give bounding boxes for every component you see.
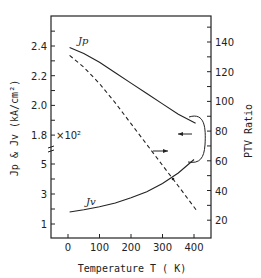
x-tick-label: 300 bbox=[153, 242, 172, 253]
jp-curve-label: Jp bbox=[76, 35, 89, 46]
right-tick-label: 140 bbox=[215, 37, 234, 48]
right-tick-label: 60 bbox=[215, 156, 228, 167]
x-tick-label: 200 bbox=[121, 242, 140, 253]
right-tick-label: 100 bbox=[215, 96, 234, 107]
x-tick-label: 0 bbox=[65, 242, 71, 253]
x-tick-label: 400 bbox=[184, 242, 203, 253]
left-axis-label: Jp & Jv (kA/cm²) bbox=[9, 80, 20, 176]
right-arrow-head bbox=[163, 149, 168, 153]
x-axis-ticks: 0100200300400 bbox=[65, 234, 204, 253]
right-tick-label: 20 bbox=[215, 215, 228, 226]
plot-frame bbox=[48, 16, 211, 238]
chart-figure: 0100200300400 2.42.22.01.8531 1401201008… bbox=[0, 0, 261, 278]
intersection-dot bbox=[172, 178, 175, 181]
left-arrow-head bbox=[178, 132, 183, 136]
left-tick-label: 2.2 bbox=[31, 71, 47, 82]
left-tick-label: 1 bbox=[41, 219, 47, 230]
x-tick-label: 100 bbox=[90, 242, 109, 253]
jp-curve bbox=[70, 48, 196, 124]
right-tick-label: 80 bbox=[215, 126, 228, 137]
left-tick-label: 2.0 bbox=[31, 100, 47, 111]
left-tick-label: 1.8 bbox=[31, 130, 47, 141]
left-tick-label: 2.4 bbox=[31, 41, 47, 52]
left-tick-label: 3 bbox=[41, 189, 47, 200]
left-tick-label: 5 bbox=[41, 159, 47, 170]
jv-curve-label: Jv bbox=[84, 196, 96, 207]
ptv-ratio-curve bbox=[70, 55, 198, 211]
x-axis-label: Temperature T ( K) bbox=[78, 263, 186, 274]
data-curves bbox=[70, 48, 206, 213]
multiplier-label: ×10² bbox=[56, 130, 81, 141]
right-tick-label: 120 bbox=[215, 67, 234, 78]
bracket-curve bbox=[188, 116, 205, 162]
right-tick-label: 40 bbox=[215, 186, 228, 197]
right-axis-label: PTV Ratio bbox=[243, 104, 254, 158]
